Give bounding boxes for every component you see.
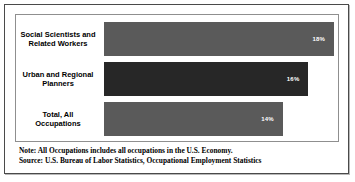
bar: 14% <box>104 102 283 136</box>
bar-value-label: 14% <box>261 116 274 122</box>
chart-row: Urban and Regional Planners 16% <box>16 62 338 96</box>
plot-area: Social Scientists and Related Workers 18… <box>15 14 339 142</box>
bar-value-label: 16% <box>287 76 300 82</box>
bar-value-label: 18% <box>312 36 325 42</box>
bar-track: 14% <box>104 102 334 136</box>
category-label-line1: Social Scientists and <box>20 30 95 40</box>
chart-row: Social Scientists and Related Workers 18… <box>16 22 338 56</box>
source-text: Source: U.S. Bureau of Labor Statistics,… <box>19 156 338 166</box>
category-label: Total, All Occupations <box>16 102 100 136</box>
category-label: Urban and Regional Planners <box>16 62 100 96</box>
chart-figure: Social Scientists and Related Workers 18… <box>4 4 349 174</box>
chart-notes: Note: All Occupations includes all occup… <box>19 146 338 166</box>
category-label-line2: Related Workers <box>28 39 87 49</box>
category-label-line2: Occupations <box>35 119 80 129</box>
category-label: Social Scientists and Related Workers <box>16 22 100 56</box>
bar-track: 18% <box>104 22 334 56</box>
bar: 16% <box>104 62 308 96</box>
chart-row: Total, All Occupations 14% <box>16 102 338 136</box>
category-label-line1: Urban and Regional <box>23 70 94 80</box>
category-label-line1: Total, All <box>43 110 74 120</box>
bar: 18% <box>104 22 334 56</box>
bar-track: 16% <box>104 62 334 96</box>
category-label-line2: Planners <box>42 79 74 89</box>
note-text: Note: All Occupations includes all occup… <box>19 146 338 156</box>
